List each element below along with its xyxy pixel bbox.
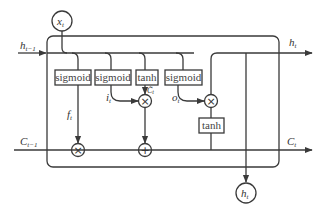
svg-text:xt: xt (56, 15, 65, 29)
svg-text:×: × (73, 144, 82, 157)
h-prev-label: ht−1 (20, 39, 36, 53)
cell-add-node: + (139, 144, 152, 158)
gate-input-sigmoid: sigmoid (95, 70, 131, 85)
h-output-line (211, 53, 312, 95)
svg-text:tanh: tanh (138, 71, 157, 83)
svg-text:sigmoid: sigmoid (55, 71, 91, 83)
gate-forget-sigmoid: sigmoid (55, 70, 91, 85)
forget-multiply-node: × (72, 144, 85, 158)
h-out-label: ht (289, 36, 298, 50)
branch-input (105, 53, 111, 70)
candidate-signal-label: C̃t (147, 86, 154, 95)
output-signal-line (178, 85, 204, 101)
svg-text:×: × (140, 95, 149, 108)
svg-text:sigmoid: sigmoid (166, 71, 202, 83)
svg-text:ht: ht (241, 187, 250, 201)
output-multiply-node: × (205, 95, 218, 109)
lstm-diagram: xt ht−1 sigmoid sigmoid tanh sigmoid ft … (0, 0, 318, 211)
svg-text:×: × (206, 95, 215, 108)
c-out-label: Ct (287, 135, 297, 149)
output-signal-label: ot (172, 91, 181, 105)
forget-signal-label: ft (67, 108, 73, 122)
input-multiply-node: × (139, 95, 152, 109)
input-x-node: xt (52, 11, 72, 31)
output-h-node: ht (236, 183, 256, 203)
svg-text:+: + (140, 144, 149, 157)
x-input-line (62, 31, 67, 53)
svg-text:tanh: tanh (202, 119, 221, 131)
gate-output-sigmoid: sigmoid (165, 70, 202, 85)
branch-forget (72, 53, 78, 70)
input-signal-line (111, 85, 138, 101)
branch-candidate (139, 53, 145, 70)
svg-text:sigmoid: sigmoid (95, 71, 131, 83)
gate-candidate-tanh: tanh (136, 70, 158, 85)
branch-output (176, 53, 183, 70)
cell-tanh-box: tanh (199, 118, 224, 133)
c-prev-label: Ct−1 (20, 135, 38, 149)
